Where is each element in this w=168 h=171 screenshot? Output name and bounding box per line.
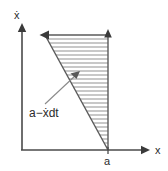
x-axis-arrowhead: [141, 146, 150, 154]
y-axis-label: ẋ: [14, 9, 20, 21]
top-edge-left-arrowhead: [40, 31, 50, 40]
callout-leader-line: [45, 75, 76, 104]
phase-plane-figure: ẋ x a a−ẋdt: [0, 0, 168, 171]
x-axis-label: x: [155, 144, 161, 156]
figure-container: ẋ x a a−ẋdt: [0, 0, 168, 171]
callout-label: a−ẋdt: [29, 106, 59, 120]
y-axis-arrowhead: [18, 23, 26, 32]
top-edge-right-arrowhead: [104, 29, 112, 38]
x-axis-tick-label-a: a: [104, 155, 111, 167]
